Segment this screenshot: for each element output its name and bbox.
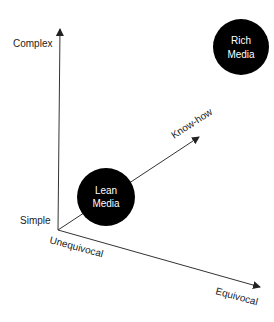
unequivocal-label: Unequivocal [48,234,104,259]
media-richness-diagram: Complex Simple Unequivocal Equivocal Kno… [0,0,274,322]
lean-media-label-line2: Media [92,198,120,209]
complex-label: Complex [13,38,52,49]
complexity-axis [58,29,60,230]
know-how-label: Know-how [169,106,215,141]
simple-label: Simple [20,215,51,226]
equivocality-axis [58,230,260,287]
rich-media-label-line2: Media [227,49,255,60]
equivocal-label: Equivocal [214,285,259,307]
lean-media-node: Lean Media [77,168,135,226]
lean-media-label-line1: Lean [95,185,117,196]
rich-media-label-line1: Rich [231,35,251,46]
rich-media-node: Rich Media [213,19,269,75]
